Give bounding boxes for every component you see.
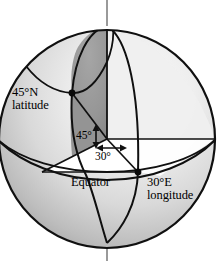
point-45n-30e (69, 90, 76, 97)
label-45n-latitude: 45°N latitude (12, 86, 49, 112)
label-30e-longitude-line2: longitude (147, 189, 193, 202)
globe-diagram-svg (0, 0, 224, 261)
globe-coordinates-figure: 45°N latitude Equator 30°E longitude 45°… (0, 0, 224, 261)
point-equator-30e (135, 169, 142, 176)
label-30e-longitude: 30°E longitude (147, 176, 193, 202)
label-angle-30: 30° (95, 151, 111, 163)
label-equator: Equator (71, 176, 110, 189)
label-45n-latitude-line2: latitude (12, 99, 49, 112)
label-angle-45: 45° (76, 130, 92, 142)
